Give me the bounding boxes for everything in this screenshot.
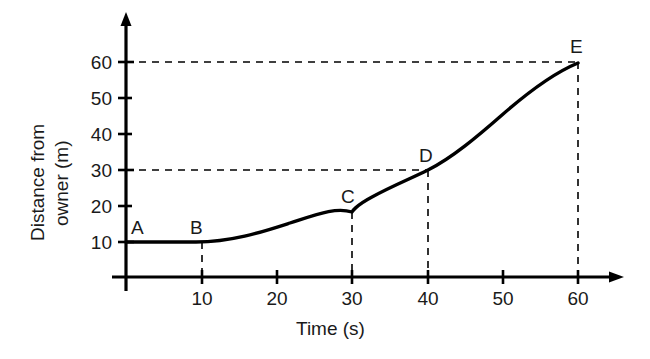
y-axis-title-line1: Distance from xyxy=(27,124,49,241)
point-label-e: E xyxy=(570,36,583,58)
y-tick-label-60: 60 xyxy=(66,52,112,74)
x-tick-label-10: 10 xyxy=(182,288,222,310)
x-tick-label-20: 20 xyxy=(257,288,297,310)
x-axis-arrow-icon xyxy=(609,272,624,283)
y-tick-label-50: 50 xyxy=(66,88,112,110)
point-label-b: B xyxy=(190,217,203,239)
guide-lines-horizontal xyxy=(126,62,578,170)
x-tick-label-50: 50 xyxy=(483,288,523,310)
y-axis-title-line2: owner (m) xyxy=(51,140,73,226)
x-tick-label-60: 60 xyxy=(558,288,598,310)
y-axis-arrow-icon xyxy=(121,12,132,26)
distance-time-graph: 10 20 30 40 50 60 10 20 30 40 50 60 A B … xyxy=(0,0,650,359)
point-label-c: C xyxy=(341,186,355,208)
y-axis xyxy=(121,12,132,291)
x-axis-title: Time (s) xyxy=(0,318,650,340)
point-label-d: D xyxy=(419,145,433,167)
y-tick-label-10: 10 xyxy=(66,232,112,254)
x-tick-label-40: 40 xyxy=(408,288,448,310)
x-axis xyxy=(112,272,624,283)
point-label-a: A xyxy=(131,217,144,239)
x-tick-label-30: 30 xyxy=(332,288,372,310)
